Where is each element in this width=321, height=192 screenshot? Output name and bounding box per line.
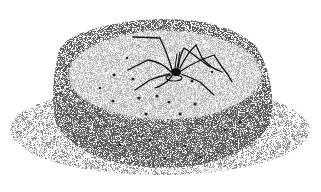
mound [53,19,272,168]
illustration [0,0,321,192]
